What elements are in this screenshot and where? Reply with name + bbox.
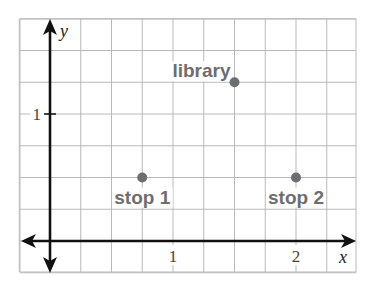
x-tick-label: 2 bbox=[292, 247, 301, 266]
point-library: library bbox=[170, 60, 239, 87]
x-tick-label: 1 bbox=[169, 247, 178, 266]
point-marker bbox=[291, 173, 301, 183]
point-marker bbox=[230, 77, 240, 87]
point-label: stop 2 bbox=[268, 187, 324, 208]
coordinate-plane: 121 y x stop 1librarystop 2 bbox=[0, 0, 372, 291]
point-marker bbox=[137, 173, 147, 183]
y-tick-label: 1 bbox=[33, 105, 42, 124]
x-axis-label: x bbox=[338, 247, 347, 267]
point-label: library bbox=[172, 60, 231, 81]
grid-lines bbox=[19, 19, 356, 273]
point-label: stop 1 bbox=[114, 187, 170, 208]
y-axis-label: y bbox=[58, 21, 68, 41]
